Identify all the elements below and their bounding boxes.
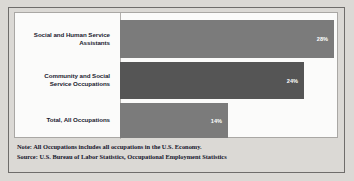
category-label-line2: Assistants: [10, 39, 110, 47]
category-label: Social and Human Service Assistants: [10, 31, 110, 47]
footnote-note: Note: All Occupations includes all occup…: [17, 142, 337, 152]
bar-value-label: 28%: [317, 36, 328, 42]
plot-panel: Social and Human Service Assistants 28% …: [14, 12, 338, 138]
bar-community-and-social-service-occupations[interactable]: 24%: [120, 62, 304, 99]
chart-footnotes: Note: All Occupations includes all occup…: [17, 142, 337, 161]
category-label: Community and Social Service Occupations: [10, 72, 110, 88]
chart-page: Social and Human Service Assistants 28% …: [0, 0, 354, 181]
bar-row: Community and Social Service Occupations…: [15, 62, 337, 99]
category-label: Total, All Occupations: [10, 116, 110, 124]
bar-chart: Social and Human Service Assistants 28% …: [15, 13, 337, 137]
bar-row: Social and Human Service Assistants 28%: [15, 20, 337, 58]
bar-row: Total, All Occupations 14%: [15, 103, 337, 138]
footnote-source: Source: U.S. Bureau of Labor Statistics,…: [17, 152, 337, 162]
category-label-line1: Total, All Occupations: [10, 116, 110, 124]
category-label-line2: Service Occupations: [10, 80, 110, 88]
bar-social-and-human-service-assistants[interactable]: 28%: [120, 20, 334, 58]
bar-total-all-occupations[interactable]: 14%: [120, 103, 228, 138]
category-label-line1: Community and Social: [10, 72, 110, 80]
category-label-line1: Social and Human Service: [10, 31, 110, 39]
bar-value-label: 14%: [211, 118, 222, 124]
bar-value-label: 24%: [287, 78, 298, 84]
